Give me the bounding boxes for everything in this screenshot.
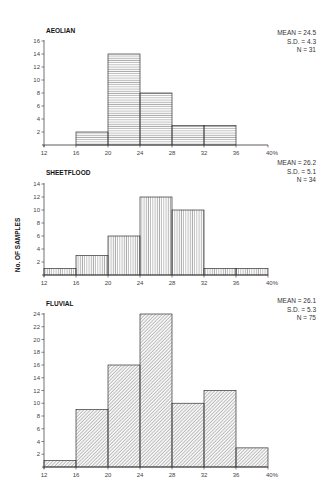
y-tick-label: 4 <box>37 116 41 122</box>
panel-title: AEOLIAN <box>46 27 76 34</box>
histogram-bar <box>140 93 172 145</box>
n-stat: N = 31 <box>297 46 317 53</box>
y-tick-label: 6 <box>37 426 41 432</box>
x-tick-label: 20 <box>105 280 112 286</box>
x-tick-label: 36 <box>233 472 240 478</box>
sd-stat: S.D. = 5.3 <box>287 306 316 313</box>
n-stat: N = 75 <box>297 314 317 321</box>
histogram-bar <box>108 365 140 467</box>
stats-block: MEAN = 24.5S.D. = 4.3N = 31 <box>277 29 316 53</box>
x-tick-label: 40% <box>266 280 279 286</box>
bars <box>44 197 268 275</box>
x-tick-label: 16 <box>73 472 80 478</box>
y-tick-label: 8 <box>37 413 41 419</box>
y-tick-label: 16 <box>33 38 40 44</box>
y-tick-label: 2 <box>37 451 41 457</box>
x-tick-label: 36 <box>233 280 240 286</box>
y-tick-label: 12 <box>33 194 40 200</box>
x-tick-label: 20 <box>105 472 112 478</box>
y-tick-label: 12 <box>33 64 40 70</box>
panel-title: SHEETFLOOD <box>46 169 91 176</box>
y-tick-label: 24 <box>33 311 40 317</box>
histogram-panel-aeolian: AEOLIANMEAN = 24.5S.D. = 4.3N = 31246810… <box>33 27 316 156</box>
histogram-bar <box>76 410 108 467</box>
bars <box>44 314 268 467</box>
histogram-bar <box>44 269 76 276</box>
x-tick-label: 12 <box>41 280 48 286</box>
histogram-bar <box>172 210 204 275</box>
histogram-panel-sheetflood: SHEETFLOODMEAN = 26.2S.D. = 5.1N = 34246… <box>33 159 316 286</box>
histogram-bar <box>76 256 108 276</box>
stats-block: MEAN = 26.2S.D. = 5.1N = 34 <box>277 159 316 183</box>
x-tick-label: 12 <box>41 472 48 478</box>
y-tick-label: 14 <box>33 51 40 57</box>
y-tick-label: 2 <box>37 259 41 265</box>
x-tick-label: 16 <box>73 280 80 286</box>
y-tick-label: 10 <box>33 207 40 213</box>
y-tick-label: 8 <box>37 220 41 226</box>
histogram-figure: AEOLIANMEAN = 24.5S.D. = 4.3N = 31246810… <box>0 0 330 488</box>
x-tick-label: 28 <box>169 472 176 478</box>
y-tick-label: 4 <box>37 246 41 252</box>
y-tick-label: 8 <box>37 90 41 96</box>
x-tick-label: 36 <box>233 150 240 156</box>
x-tick-label: 16 <box>73 150 80 156</box>
x-tick-label: 32 <box>201 150 208 156</box>
x-tick-label: 24 <box>137 472 144 478</box>
histogram-bar <box>108 236 140 275</box>
histogram-bar <box>172 403 204 467</box>
histogram-bar <box>236 269 268 276</box>
y-tick-label: 12 <box>33 388 40 394</box>
x-tick-label: 28 <box>169 150 176 156</box>
histogram-bar <box>140 197 172 275</box>
y-tick-label: 18 <box>33 349 40 355</box>
y-tick-label: 22 <box>33 324 40 330</box>
mean-stat: MEAN = 26.1 <box>277 297 316 304</box>
y-tick-label: 20 <box>33 337 40 343</box>
bars <box>76 54 236 145</box>
x-tick-label: 40% <box>266 472 279 478</box>
histogram-bar <box>44 461 76 467</box>
x-tick-label: 24 <box>137 150 144 156</box>
y-tick-label: 14 <box>33 375 40 381</box>
y-tick-label: 14 <box>33 181 40 187</box>
y-tick-label: 16 <box>33 362 40 368</box>
histogram-panel-fluvial: FLUVIALMEAN = 26.1S.D. = 5.3N = 75246810… <box>33 297 316 478</box>
histogram-bar <box>204 269 236 276</box>
panel-title: FLUVIAL <box>46 300 73 307</box>
x-tick-label: 40% <box>266 150 279 156</box>
y-tick-label: 10 <box>33 77 40 83</box>
n-stat: N = 34 <box>297 176 317 183</box>
y-tick-label: 10 <box>33 400 40 406</box>
x-tick-label: 20 <box>105 150 112 156</box>
x-tick-label: 28 <box>169 280 176 286</box>
x-tick-label: 32 <box>201 472 208 478</box>
histogram-bar <box>204 126 236 146</box>
y-tick-label: 4 <box>37 439 41 445</box>
x-tick-label: 32 <box>201 280 208 286</box>
histogram-bar <box>236 448 268 467</box>
histogram-bar <box>108 54 140 145</box>
sd-stat: S.D. = 4.3 <box>287 38 316 45</box>
y-tick-label: 6 <box>37 103 41 109</box>
histogram-bar <box>140 314 172 467</box>
sd-stat: S.D. = 5.1 <box>287 168 316 175</box>
histogram-bar <box>204 391 236 468</box>
mean-stat: MEAN = 24.5 <box>277 29 316 36</box>
y-tick-label: 2 <box>37 129 41 135</box>
x-tick-label: 12 <box>41 150 48 156</box>
histogram-bar <box>172 126 204 146</box>
mean-stat: MEAN = 26.2 <box>277 159 316 166</box>
x-tick-label: 24 <box>137 280 144 286</box>
y-tick-label: 6 <box>37 233 41 239</box>
stats-block: MEAN = 26.1S.D. = 5.3N = 75 <box>277 297 316 321</box>
histogram-bar <box>76 132 108 145</box>
y-axis-label: No. OF SAMPLES <box>14 217 21 272</box>
